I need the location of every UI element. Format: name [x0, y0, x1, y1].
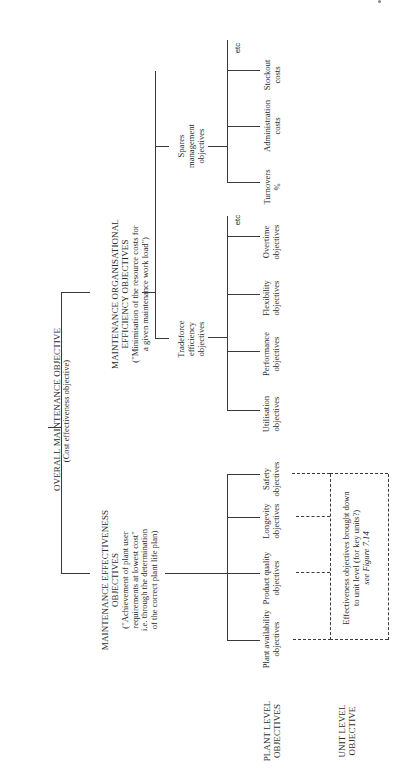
- root-spine: [61, 292, 62, 574]
- utilisation-label: Utilisation objectives: [262, 386, 284, 442]
- product-quality-dashed-link: [296, 572, 330, 573]
- product-quality-tick: [227, 573, 260, 574]
- effectiveness-desc-4: of the correct plant life plan): [150, 506, 160, 654]
- flexibility-label: Flexibility objectives: [262, 269, 284, 327]
- stockout-tick: [227, 70, 260, 71]
- spares-management-label: Spares management objectives: [177, 111, 207, 181]
- tradeforce-link: [155, 338, 169, 339]
- unit-level-box-text: Effectiveness objectives brought down to…: [342, 480, 376, 636]
- efficiency-branch-link: [61, 292, 90, 293]
- efficiency-desc-2: a given maintenance work load"): [140, 207, 150, 382]
- longevity-tick: [227, 517, 260, 518]
- administration-tick: [227, 126, 260, 127]
- efficiency-objectives-label: MAINTENANCE ORGANISATIONAL EFFICIENCY OB…: [110, 207, 156, 382]
- performance-label: Performance objectives: [262, 321, 284, 387]
- plant-level-l1: PLANT LEVEL: [262, 698, 272, 764]
- page-mark: [378, 0, 381, 3]
- root-subtitle: (Cost effectiveness objective): [62, 331, 72, 491]
- utilisation-tick: [227, 410, 260, 411]
- spares-etc: etc: [233, 38, 242, 58]
- safety-label: Safety objectives: [262, 455, 284, 503]
- tradeforce-etc-label: etc: [233, 210, 245, 230]
- overtime-tick: [227, 236, 260, 237]
- spares-etc-label: etc: [233, 38, 245, 58]
- plant-level-objectives-row-label: PLANT LEVEL OBJECTIVES: [262, 698, 284, 764]
- spares-stem: [208, 146, 228, 147]
- effectiveness-stem: [165, 573, 228, 574]
- unit-box-left-edge: [330, 474, 331, 640]
- plant-level-l2: OBJECTIVES: [272, 698, 282, 764]
- root-stem: [48, 427, 62, 428]
- safety-l2: objectives: [272, 455, 282, 503]
- longevity-dashed-link: [296, 516, 330, 517]
- turnovers-tick: [227, 182, 260, 183]
- unit-level-l1: UNIT LEVEL: [337, 703, 347, 759]
- efficiency-stem: [142, 292, 156, 293]
- unit-box-l3: see Figure 7.14: [362, 480, 372, 636]
- tradeforce-efficiency-label: Tradeforce efficiency objectives: [177, 309, 207, 369]
- unit-level-l2: OBJECTIVE: [347, 703, 357, 759]
- flexibility-l2: objectives: [272, 269, 282, 327]
- flexibility-tick: [227, 294, 260, 295]
- effectiveness-title-1: MAINTENANCE EFFECTIVENESS: [100, 506, 110, 654]
- utilisation-l2: objectives: [272, 386, 282, 442]
- overtime-l2: objectives: [272, 214, 282, 270]
- product-quality-label: Product quality objectives: [262, 544, 284, 612]
- spares-l3: objectives: [197, 111, 207, 181]
- tradeforce-l3: objectives: [197, 309, 207, 369]
- overtime-label: Overtime objectives: [262, 214, 284, 270]
- efficiency-spine: [155, 71, 156, 339]
- performance-l2: objectives: [272, 321, 282, 387]
- plant-availability-tick: [227, 640, 260, 641]
- safety-tick: [227, 474, 260, 475]
- turnovers-l2: %: [273, 157, 283, 217]
- stockout-costs-label: Stockout costs: [263, 49, 285, 101]
- unit-level-objective-row-label: UNIT LEVEL OBJECTIVE: [337, 703, 359, 759]
- effectiveness-branch-link: [61, 573, 90, 574]
- tradeforce-etc: etc: [233, 210, 242, 230]
- efficiency-title-1: MAINTENANCE ORGANISATIONAL: [110, 207, 120, 382]
- performance-tick: [227, 351, 260, 352]
- plant-availability-label: Plant availability objectives: [262, 602, 284, 676]
- spares-link: [155, 146, 169, 147]
- tradeforce-children-spine: [227, 216, 228, 411]
- stockout-l2: costs: [273, 49, 283, 101]
- plant-availability-dashed-link: [293, 639, 331, 640]
- plant-availability-l2: objectives: [272, 602, 282, 676]
- safety-dashed-link: [292, 473, 330, 474]
- unit-box-bottom-edge: [330, 639, 388, 640]
- product-quality-l2: objectives: [272, 544, 282, 612]
- maintenance-objectives-hierarchy-diagram: OVERALL MAINTENANCE OBJECTIVE (Cost effe…: [0, 0, 411, 783]
- unit-box-right-edge: [388, 474, 389, 640]
- tradeforce-stem: [208, 337, 228, 338]
- turnovers-label: Turnovers %: [263, 157, 285, 217]
- effectiveness-objectives-label: MAINTENANCE EFFECTIVENESS OBJECTIVES ("A…: [100, 506, 164, 654]
- root-objective-label: OVERALL MAINTENANCE OBJECTIVE (Cost effe…: [52, 331, 84, 491]
- effectiveness-children-spine: [227, 474, 228, 641]
- unit-box-top-edge: [330, 473, 388, 474]
- spares-children-spine: [227, 40, 228, 183]
